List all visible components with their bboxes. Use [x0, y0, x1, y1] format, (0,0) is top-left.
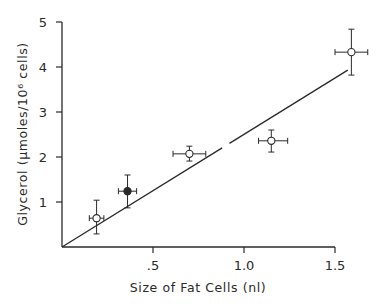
x-axis: .51.01.5	[62, 247, 345, 273]
open-circle-marker	[93, 215, 100, 222]
y-tick-label: 4	[39, 60, 47, 75]
x-tick-label: 1.5	[325, 258, 346, 273]
y-tick-label: 2	[39, 150, 47, 165]
x-axis-title: Size of Fat Cells (nl)	[130, 280, 266, 295]
y-tick-label: 5	[39, 15, 47, 30]
data-point	[335, 29, 368, 75]
scatter-chart: 12345 .51.01.5 Size of Fat Cells (nl) Gl…	[0, 0, 380, 308]
y-tick-label: 1	[39, 195, 47, 210]
y-axis-title: Glycerol (µmoles/10⁶ cells)	[15, 42, 30, 226]
data-point	[173, 146, 206, 161]
data-points	[89, 29, 367, 234]
regression-segment	[62, 148, 222, 247]
x-tick-label: 1.0	[234, 258, 255, 273]
open-circle-marker	[348, 49, 355, 56]
regression-line	[62, 70, 348, 247]
x-tick-label: .5	[147, 258, 159, 273]
y-tick-label: 3	[39, 105, 47, 120]
open-circle-marker	[268, 137, 275, 144]
y-axis: 12345	[39, 15, 62, 247]
filled-circle-marker	[124, 188, 131, 195]
open-circle-marker	[186, 150, 193, 157]
regression-segment	[229, 70, 347, 143]
data-point	[259, 130, 288, 152]
